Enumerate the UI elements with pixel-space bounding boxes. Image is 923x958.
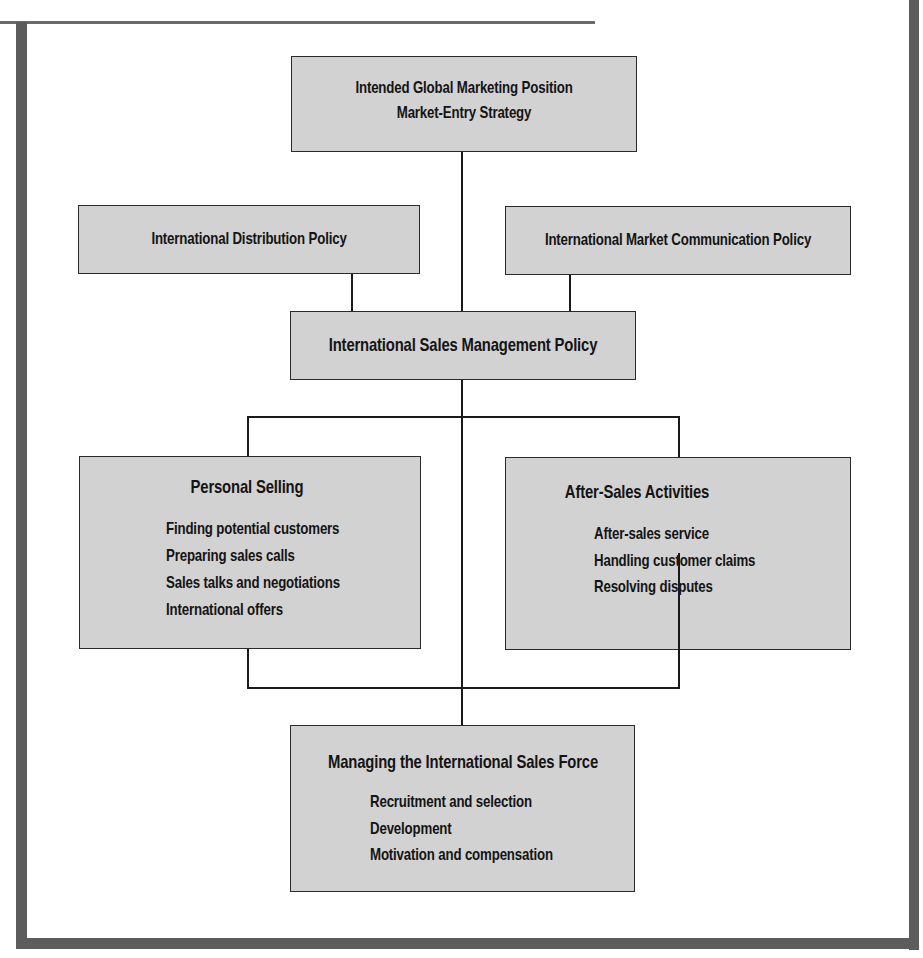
node-sales-force-item: Motivation and compensation	[370, 845, 553, 865]
node-personal-selling-title: Personal Selling	[191, 476, 304, 498]
connector-communication-to-sales-mgmt	[569, 274, 571, 311]
connector-center-trunk	[461, 151, 463, 311]
connector-branch-bottom	[247, 687, 680, 689]
frame-right-border	[909, 0, 919, 950]
node-after-sales-item: After-sales service	[594, 524, 709, 544]
node-after-sales-item: Resolving disputes	[594, 577, 713, 597]
node-after-sales-title: After-Sales Activities	[565, 481, 709, 503]
node-personal-selling-item: Finding potential customers	[166, 519, 339, 539]
node-after-sales-item: Handling customer claims	[594, 551, 755, 571]
node-global-position-line-1: Intended Global Marketing Position	[355, 78, 572, 98]
connector-distribution-to-sales-mgmt	[351, 273, 353, 311]
frame-bottom-border	[16, 938, 919, 949]
node-sales-force-item: Recruitment and selection	[370, 792, 532, 812]
frame-left-border	[16, 22, 27, 948]
connector-to-personal-selling	[247, 416, 249, 457]
node-sales-management-policy-label: International Sales Management Policy	[329, 334, 597, 356]
connector-after-sales-down	[678, 553, 680, 689]
connector-personal-selling-down	[247, 647, 249, 689]
node-communication-policy-label: International Market Communication Polic…	[545, 230, 811, 250]
node-global-position-line-2: Market-Entry Strategy	[397, 103, 532, 123]
node-personal-selling-item: International offers	[166, 600, 283, 620]
connector-center-lower-trunk	[461, 379, 463, 726]
connector-to-after-sales	[678, 416, 680, 457]
frame-top-rule	[0, 21, 595, 24]
connector-branch-top	[247, 416, 680, 418]
node-distribution-policy-label: International Distribution Policy	[151, 229, 346, 249]
node-personal-selling-item: Preparing sales calls	[166, 546, 295, 566]
node-personal-selling-item: Sales talks and negotiations	[166, 573, 340, 593]
node-sales-force-title: Managing the International Sales Force	[328, 751, 598, 773]
node-sales-force-item: Development	[370, 819, 452, 839]
